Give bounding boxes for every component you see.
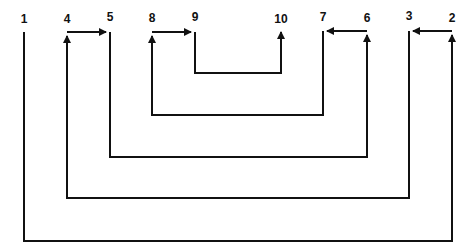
- node-label-4: 4: [64, 13, 71, 25]
- node-label-7: 7: [320, 11, 327, 23]
- node-label-8: 8: [149, 12, 156, 24]
- path-9-to-10: [195, 32, 281, 73]
- node-label-5: 5: [107, 11, 114, 23]
- path-5-to-6: [110, 32, 367, 157]
- node-label-1: 1: [21, 13, 28, 25]
- node-label-9: 9: [192, 11, 199, 23]
- node-label-3: 3: [406, 10, 413, 22]
- path-1-to-2: [24, 32, 452, 241]
- node-label-2: 2: [449, 12, 456, 24]
- nested-path-diagram: [0, 0, 474, 251]
- node-label-10: 10: [274, 13, 287, 25]
- node-label-6: 6: [364, 12, 371, 24]
